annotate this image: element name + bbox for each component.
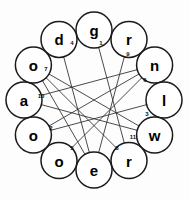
node-circle bbox=[137, 47, 173, 83]
chord-edge-7 bbox=[41, 70, 137, 96]
node-circle bbox=[111, 143, 147, 179]
chord-edge-11 bbox=[41, 105, 137, 131]
node-circle bbox=[15, 117, 51, 153]
node-circle bbox=[76, 152, 112, 188]
chord-number-11: 11 bbox=[130, 134, 137, 140]
node-n8-o[interactable]: o bbox=[15, 117, 51, 153]
node-circle bbox=[6, 82, 42, 118]
circular-graph: grnlwreooaod 1234567891011 bbox=[0, 0, 189, 200]
node-n6-e[interactable]: e bbox=[76, 152, 112, 188]
chord-number-3: 3 bbox=[145, 111, 149, 117]
node-n0-g[interactable]: g bbox=[76, 12, 112, 48]
node-n11-d[interactable]: d bbox=[41, 21, 77, 57]
node-n5-r[interactable]: r bbox=[111, 143, 147, 179]
diagram-canvas: grnlwreooaod 1234567891011 bbox=[0, 0, 189, 200]
node-n3-l[interactable]: l bbox=[146, 82, 182, 118]
node-circle bbox=[41, 21, 77, 57]
node-circle bbox=[146, 82, 182, 118]
chord-edge-3 bbox=[51, 105, 147, 131]
chord-edge-8 bbox=[46, 78, 116, 148]
chord-edge-layer bbox=[41, 47, 146, 154]
node-circle bbox=[76, 12, 112, 48]
chord-edge-6 bbox=[72, 78, 142, 148]
node-n9-a[interactable]: a bbox=[6, 82, 42, 118]
node-n2-n[interactable]: n bbox=[137, 47, 173, 83]
